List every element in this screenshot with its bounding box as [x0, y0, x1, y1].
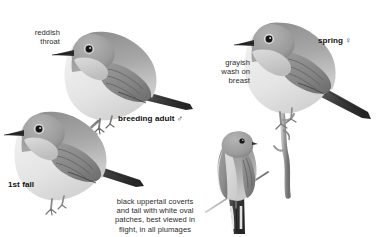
figure-spring-female: [234, 22, 371, 196]
annotation-reddish-throat: reddish throat: [6, 28, 60, 46]
perch-twig-adult: [70, 116, 104, 147]
label-first-fall: 1st fall: [8, 180, 52, 189]
annotation-grayish-wash-on-breast: grayish wash on breast: [198, 58, 250, 86]
label-breeding-adult-male: breeding adult ♂: [118, 114, 210, 123]
field-guide-plate: reddish throat grayish wash on breast br…: [0, 0, 387, 237]
caption-uppertail-coverts: black uppertail coverts and tail with wh…: [92, 197, 218, 234]
figure-breeding-adult-male: [52, 32, 193, 147]
label-spring-female: spring ♀: [318, 36, 376, 45]
perch-branch-female: [274, 104, 294, 196]
